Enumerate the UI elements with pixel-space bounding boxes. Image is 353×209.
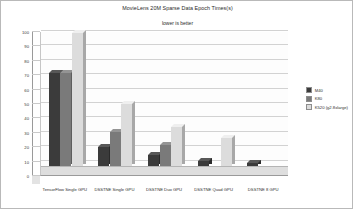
legend: M40K80K520 (g2.8xlarge)	[306, 87, 348, 113]
y-axis-tick-mark	[32, 103, 40, 104]
y-axis-line	[32, 32, 33, 176]
bar-group	[247, 23, 281, 167]
legend-swatch-icon	[306, 87, 312, 93]
y-axis-tick-label: 20	[24, 145, 29, 150]
bar-group	[198, 23, 232, 167]
chart-container: MovieLens 20M Sparse Data Epoch Times(s)…	[0, 0, 353, 209]
bar-side	[132, 101, 135, 164]
plot-floor-front	[41, 166, 288, 175]
bar-face	[171, 127, 182, 167]
bar-face	[160, 145, 171, 167]
y-axis-tick-label: 80	[24, 58, 29, 63]
legend-item-label: K520 (g2.8xlarge)	[315, 105, 348, 110]
legend-item[interactable]: K80	[306, 96, 348, 102]
plot-back-wall	[40, 32, 288, 176]
y-axis-tick-label: 10	[24, 159, 29, 164]
bar-side	[182, 124, 185, 164]
x-axis-tick-label: DSSTNE Duo GPU	[146, 187, 182, 192]
y-axis-tick-mark	[32, 117, 40, 118]
y-axis-tick-mark	[32, 132, 40, 133]
legend-item-label: K80	[315, 96, 322, 101]
y-axis-tick-label: 30	[24, 130, 29, 135]
bar-face	[221, 138, 232, 167]
y-axis-tick-mark	[32, 45, 40, 46]
bar-face	[72, 33, 83, 167]
bar-face	[49, 73, 60, 167]
y-axis-tick-mark	[32, 60, 40, 61]
y-axis-tick-label: 60	[24, 87, 29, 92]
y-axis-tick-mark	[32, 146, 40, 147]
y-axis-tick-mark	[32, 175, 40, 176]
bar-group	[148, 23, 182, 167]
y-axis-tick-label: 40	[24, 116, 29, 121]
legend-swatch-icon	[306, 104, 312, 110]
legend-swatch-icon	[306, 96, 312, 102]
chart-title: MovieLens 20M Sparse Data Epoch Times(s)	[1, 5, 353, 11]
bar-face	[98, 147, 109, 167]
legend-item-label: M40	[315, 88, 323, 93]
plot-area: 0102030405060708090100 TensorFlow Single…	[32, 32, 288, 184]
y-axis-tick-label: 90	[24, 44, 29, 49]
bar-face	[121, 104, 132, 167]
bar-group	[98, 23, 132, 167]
y-axis-tick-mark	[32, 31, 40, 32]
y-axis-tick-label: 100	[22, 30, 29, 35]
y-axis-tick-label: 50	[24, 102, 29, 107]
y-axis-tick-mark	[32, 161, 40, 162]
legend-item[interactable]: M40	[306, 87, 348, 93]
bar-side	[232, 135, 235, 164]
bar-face	[60, 73, 71, 167]
x-axis-tick-label: TensorFlow Single GPU	[43, 187, 87, 192]
legend-item[interactable]: K520 (g2.8xlarge)	[306, 104, 348, 110]
y-axis-tick-label: 70	[24, 73, 29, 78]
y-axis-tick-mark	[32, 89, 40, 90]
bar-face	[110, 132, 121, 167]
plot-floor-left	[32, 176, 40, 184]
y-axis-tick-label: 0	[27, 174, 29, 179]
bar-group	[49, 23, 83, 167]
y-axis-tick-mark	[32, 74, 40, 75]
x-axis-tick-label: DSSTNE 8 GPU	[248, 187, 279, 192]
x-axis-tick-label: DSSTNE Quad GPU	[194, 187, 233, 192]
x-axis-tick-label: DSSTNE Single GPU	[94, 187, 134, 192]
bar-side	[83, 30, 86, 164]
